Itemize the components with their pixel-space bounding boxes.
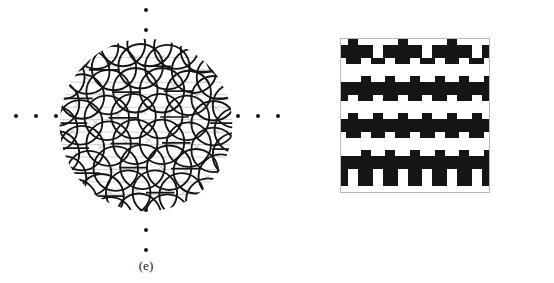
hyperbolic-disk-graphic <box>57 36 235 214</box>
ellipsis-dot <box>256 114 260 118</box>
ellipsis-bottom-panel-e <box>144 200 148 260</box>
caption-panel-e: (e) <box>116 258 176 274</box>
ellipsis-left-panel-e <box>6 114 66 118</box>
ellipsis-dot <box>54 114 58 118</box>
panel-e-hyperbolic-disk: (e) <box>0 0 290 283</box>
square-tiling-svg <box>341 39 489 192</box>
panel-f-square-tiling: (f) <box>290 0 554 283</box>
figure-panel: (e) <box>0 0 554 283</box>
square-tiling-graphic <box>340 38 490 193</box>
ellipsis-dot <box>14 114 18 118</box>
hyperbolic-disk-svg <box>57 36 235 214</box>
ellipsis-dot <box>144 28 148 32</box>
ellipsis-dot <box>144 248 148 252</box>
ellipsis-dot <box>144 228 148 232</box>
ellipsis-dot <box>276 114 280 118</box>
ellipsis-dot <box>34 114 38 118</box>
ellipsis-top-panel-e <box>144 0 148 40</box>
ellipsis-dot <box>144 8 148 12</box>
ellipsis-dot <box>144 208 148 212</box>
ellipsis-right-panel-e <box>228 114 288 118</box>
ellipsis-dot <box>236 114 240 118</box>
